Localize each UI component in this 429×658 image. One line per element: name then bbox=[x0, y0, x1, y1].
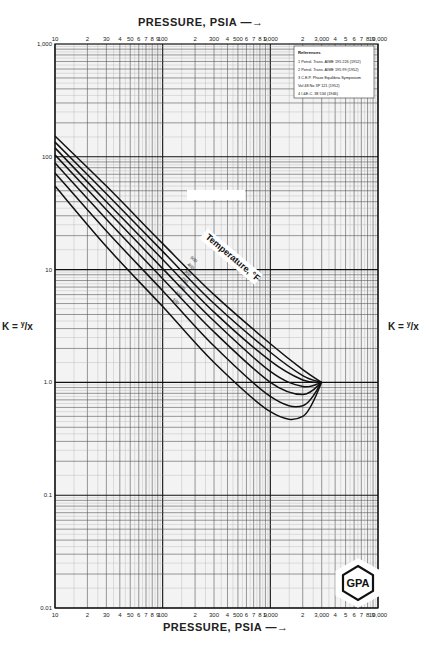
x-tick-label: 500 bbox=[233, 36, 244, 42]
y-tick-label: 10 bbox=[45, 267, 52, 273]
x-tick-label: 3,000 bbox=[314, 36, 330, 42]
x-tick-label: 300 bbox=[209, 36, 220, 42]
x-tick-label: 10,000 bbox=[369, 36, 388, 42]
x-tick-label: 2 bbox=[86, 36, 90, 42]
reference-entry: 1 Petrol. Trans. AIME 195 226 (1952) bbox=[298, 60, 361, 64]
x-tick-label: 8 bbox=[151, 612, 155, 618]
x-tick-label: 3,000 bbox=[314, 612, 330, 618]
x-tick-label: 7 bbox=[252, 36, 256, 42]
x-tick-label: 4 bbox=[118, 612, 122, 618]
x-tick-label: 50 bbox=[127, 36, 134, 42]
x-tick-label: 1,000 bbox=[263, 36, 279, 42]
y-tick-label: 100 bbox=[42, 154, 53, 160]
x-tick-label: 5 bbox=[344, 612, 348, 618]
x-tick-label: 8 bbox=[151, 36, 155, 42]
x-tick-label: 100 bbox=[158, 36, 169, 42]
x-tick-label: 7 bbox=[144, 36, 148, 42]
x-tick-label: 4 bbox=[118, 36, 122, 42]
x-tick-label: 4 bbox=[333, 612, 337, 618]
x-tick-label: 10,000 bbox=[369, 612, 388, 618]
x-tick-label: 4 bbox=[226, 36, 230, 42]
x-tick-label: 4 bbox=[333, 36, 337, 42]
x-tick-label: 6 bbox=[137, 36, 141, 42]
gpa-logo-text: GPA bbox=[346, 577, 369, 589]
x-tick-label: 50 bbox=[127, 612, 134, 618]
y-tick-label: 0.01 bbox=[40, 605, 52, 611]
reference-entry: 4 I.&E.C. 38 534 (1946) bbox=[298, 92, 339, 96]
x-tick-label: 7 bbox=[144, 612, 148, 618]
y-tick-label: 0.1 bbox=[44, 492, 53, 498]
gpa-logo: GPA bbox=[338, 561, 378, 605]
x-tick-label: 300 bbox=[209, 612, 220, 618]
x-tick-label: 30 bbox=[103, 612, 110, 618]
y-tick-label: 1,000 bbox=[37, 41, 53, 47]
x-tick-label: 8 bbox=[258, 612, 262, 618]
x-tick-label: 4 bbox=[226, 612, 230, 618]
x-tick-label: 10 bbox=[52, 612, 59, 618]
k-value-chart: 1010223030445050667788991001002230030044… bbox=[0, 0, 429, 658]
x-tick-label: 2 bbox=[301, 36, 305, 42]
references-box: References1 Petrol. Trans. AIME 195 226 … bbox=[294, 46, 374, 98]
log-grid bbox=[55, 44, 378, 608]
x-tick-label: 7 bbox=[252, 612, 256, 618]
reference-entry: Vol 48 No 3P 121 (1952) bbox=[298, 84, 340, 88]
x-tick-label: 100 bbox=[158, 612, 169, 618]
x-tick-label: 7 bbox=[360, 36, 364, 42]
x-tick-label: 5 bbox=[344, 36, 348, 42]
references-title: References bbox=[298, 50, 321, 55]
x-tick-label: 500 bbox=[233, 612, 244, 618]
x-tick-label: 8 bbox=[258, 36, 262, 42]
x-tick-label: 6 bbox=[245, 36, 249, 42]
x-tick-label: 2 bbox=[193, 612, 197, 618]
x-tick-label: 2 bbox=[301, 612, 305, 618]
x-tick-label: 7 bbox=[360, 612, 364, 618]
x-tick-label: 6 bbox=[245, 612, 249, 618]
x-tick-label: 1,000 bbox=[263, 612, 279, 618]
x-tick-label: 6 bbox=[137, 612, 141, 618]
blank-title-area bbox=[187, 190, 245, 200]
x-tick-label: 6 bbox=[352, 612, 356, 618]
x-tick-label: 6 bbox=[352, 36, 356, 42]
x-tick-label: 10 bbox=[52, 36, 59, 42]
reference-entry: 2 Petrol. Trans. AIME 195 99 (1952) bbox=[298, 68, 359, 72]
x-tick-label: 30 bbox=[103, 36, 110, 42]
reference-entry: 3 C.E.P. Phase Equilibria Symposium bbox=[298, 76, 361, 80]
x-tick-label: 2 bbox=[86, 612, 90, 618]
x-tick-label: 2 bbox=[193, 36, 197, 42]
y-tick-label: 1.0 bbox=[44, 379, 53, 385]
